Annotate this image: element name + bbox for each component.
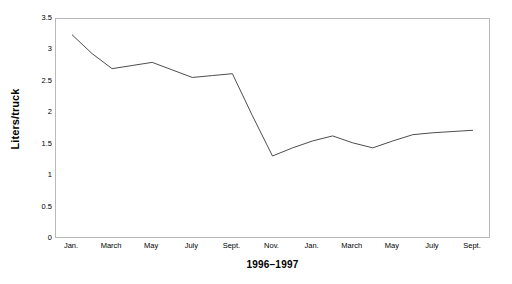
y-axis-tick-label: 0 (28, 234, 52, 242)
x-axis-title: 1996–1997 (55, 259, 490, 270)
plot-area (55, 18, 490, 238)
x-axis-tick-label: Jan. (305, 241, 319, 250)
x-axis-tick-label: July (185, 241, 198, 250)
x-axis-tick-labels: Jan.MarchMayJulySept.Nov.Jan.MarchMayJul… (55, 241, 490, 255)
x-axis-tick-label: Nov. (264, 241, 279, 250)
data-series-line (72, 35, 473, 156)
y-axis-tick-label: 2 (28, 108, 52, 116)
x-axis-tick-label: July (425, 241, 438, 250)
x-axis-tick-label: Sept. (223, 241, 241, 250)
y-axis-tick-label: 1.5 (28, 140, 52, 148)
y-axis-tick-label: 0.5 (28, 203, 52, 211)
y-axis-tick-label: 1 (28, 171, 52, 179)
y-axis-title-text: Liters/truck (9, 88, 21, 149)
y-axis-tick-label: 2.5 (28, 77, 52, 85)
x-axis-tick-label: Sept. (463, 241, 481, 250)
x-axis-tick-label: March (101, 241, 122, 250)
y-axis-tick-label: 3.5 (28, 14, 52, 22)
data-line-svg (56, 19, 491, 239)
y-axis-tick-labels: 00.511.522.533.5 (26, 0, 52, 284)
x-axis-tick-label: March (341, 241, 362, 250)
x-axis-tick-label: Jan. (64, 241, 78, 250)
x-axis-tick-label: May (144, 241, 158, 250)
x-axis-tick-label: May (385, 241, 399, 250)
y-axis-tick-label: 3 (28, 45, 52, 53)
line-chart: Liters/truck 00.511.522.533.5 Jan.MarchM… (0, 0, 512, 284)
